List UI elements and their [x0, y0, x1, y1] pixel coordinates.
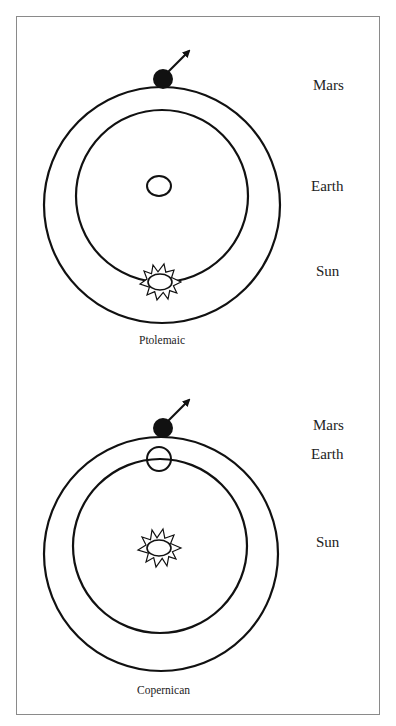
copernican-caption: Copernican — [137, 684, 190, 697]
earth-label: Earth — [311, 178, 344, 194]
ptolemaic-caption: Ptolemaic — [139, 334, 185, 346]
copernican-panel: Mars Earth Sun Copernican — [44, 400, 344, 697]
sun-label: Sun — [316, 534, 340, 550]
orbit-diagram: Mars Earth Sun Ptolemaic Mars Earth Sun … — [0, 0, 396, 726]
ptolemaic-panel: Mars Earth Sun Ptolemaic — [44, 51, 344, 346]
sun-icon — [138, 529, 181, 567]
sun-label: Sun — [316, 263, 340, 279]
mars-motion-arrow-icon — [168, 400, 189, 421]
mars-motion-arrow-icon — [167, 51, 189, 73]
mars-icon — [153, 69, 173, 89]
mars-label: Mars — [313, 417, 344, 433]
earth-icon — [147, 176, 171, 196]
earth-label: Earth — [311, 446, 344, 462]
sun-icon — [140, 264, 181, 300]
mars-icon — [153, 418, 173, 438]
mars-label: Mars — [313, 77, 344, 93]
